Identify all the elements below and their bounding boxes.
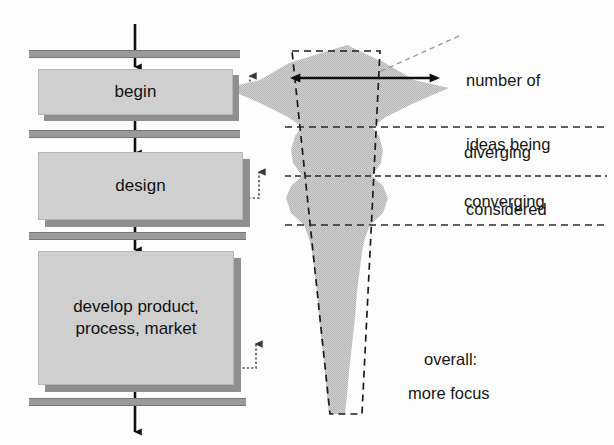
idea-funnel-shape [225, 45, 449, 414]
gate-bar-4 [29, 398, 246, 406]
callout-leader-line [379, 36, 459, 72]
gate-bar-2 [29, 130, 240, 138]
gate-bar-3 [29, 232, 246, 240]
funnel-summary-line2: more focus [408, 383, 490, 404]
stage-box-develop-label-line2: process, market [73, 318, 199, 340]
stage-box-design-label: design [38, 175, 243, 197]
diagram-canvas: begin design develop product, process, m… [0, 0, 614, 445]
stage-box-begin[interactable]: begin [38, 69, 233, 115]
gate-bar-1 [29, 50, 240, 58]
stage-box-develop-label-line1: develop product, [73, 296, 199, 318]
stage-box-design[interactable]: design [38, 152, 243, 220]
stage-box-develop[interactable]: develop product, process, market [38, 251, 234, 385]
stage-box-begin-label: begin [38, 81, 233, 103]
phase-label-diverging: diverging [464, 142, 531, 163]
phase-label-converging: converging [464, 191, 545, 212]
stage-box-develop-label: develop product, process, market [73, 296, 199, 340]
idea-count-callout-line1: number of [466, 70, 606, 91]
funnel-summary-line1: overall: [424, 349, 477, 370]
